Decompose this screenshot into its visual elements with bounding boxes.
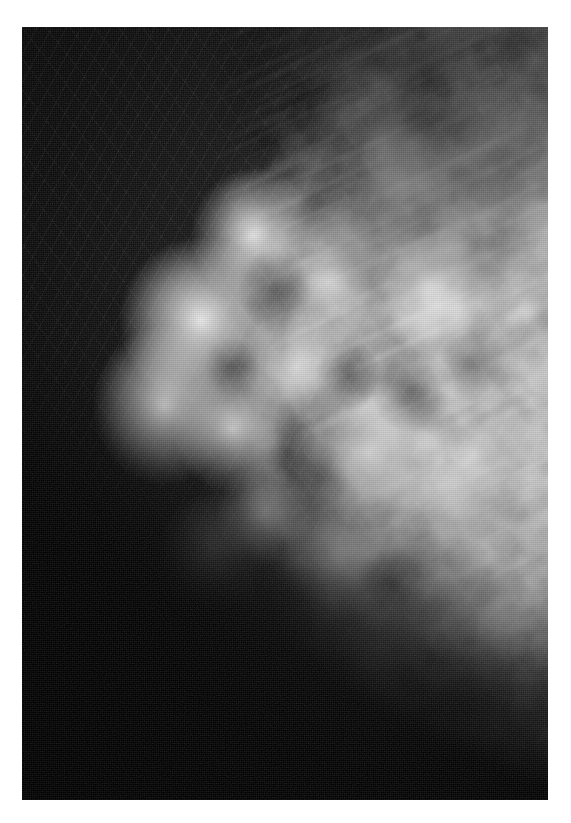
- mammogram-image: [22, 27, 548, 800]
- page: [0, 0, 571, 823]
- film-vignette-layer: [22, 27, 548, 800]
